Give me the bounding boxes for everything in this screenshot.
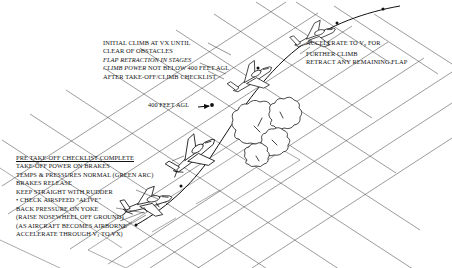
text-run: RETRACT ANY REMAINING FLAP (306, 58, 407, 65)
callout-line: BACK PRESSURE ON YOKE (16, 205, 153, 213)
emphasis-text: FLAP RETRACTION IN STAGES (103, 56, 191, 63)
400-feet-agl-arrow (198, 106, 209, 107)
aircraft-at-400-feet (224, 55, 279, 103)
400-feet-agl-label: 400 FEET AGL (148, 101, 189, 109)
callout-line: FLAP RETRACTION IN STAGES (103, 56, 229, 64)
callout-line: (AS AIRCRAFT BECOMES AIRBORNE (16, 222, 153, 230)
callout-line: FURTHER CLIMB (306, 50, 407, 58)
callout-line: CLIMB POWER NOT BELOW 400 FEET AGL (103, 64, 229, 72)
text-run: CLEAR OF OBSTACLES (103, 47, 173, 54)
callout-line: TAKE-OFF POWER ON BRAKES (16, 162, 153, 170)
text-run: TAKE-OFF POWER ON BRAKES (16, 162, 110, 169)
text-run: (AS AIRCRAFT BECOMES AIRBORNE (16, 222, 127, 229)
text-run: KEEP STRAIGHT WITH RUDDER (16, 188, 113, 195)
text-run: BACK PRESSURE ON YOKE (16, 205, 99, 212)
text-run: ACCELERATE TO V (306, 39, 364, 46)
altitude-label-text: 400 FEET AGL (148, 101, 189, 108)
text-run: INITIAL CLIMB AT VX UNTIL (103, 39, 190, 46)
text-run: FURTHER CLIMB (306, 50, 358, 57)
callout-line: KEEP STRAIGHT WITH RUDDER (16, 188, 153, 196)
callout-line: TEMPS & PRESSURES NORMAL (GREEN ARC) (16, 171, 153, 179)
callout-line: BRAKES RELEASE (16, 179, 153, 187)
callout-line: CLEAR OF OBSTACLES (103, 47, 229, 55)
callout-line: (RAISE NOSEWHEEL OFF GROUND) (16, 213, 153, 221)
text-run: AFTER TAKE-OFF/CLIMB CHECKLIST (103, 73, 216, 80)
callout-line: INITIAL CLIMB AT VX UNTIL (103, 39, 229, 47)
text-run: TEMPS & PRESSURES NORMAL (GREEN ARC) (16, 171, 153, 178)
tree-cluster (232, 97, 302, 166)
callout-line: ACCELERATE TO Vy FOR (306, 39, 407, 50)
accelerate-callout: ACCELERATE TO Vy FORFURTHER CLIMBRETRACT… (306, 39, 407, 67)
callout-line: AFTER TAKE-OFF/CLIMB CHECKLIST (103, 73, 229, 81)
bullet-text: • CHECK AIRSPEED "ALIVE" (16, 196, 101, 203)
aircraft-initial-climb (161, 126, 225, 185)
text-run: TO VX) (100, 230, 123, 237)
emphasis-text: CLIMB POWER (103, 64, 148, 71)
text-run: (RAISE NOSEWHEEL OFF GROUND) (16, 213, 124, 220)
text-run: FOR (366, 39, 380, 46)
callout-line: RETRACT ANY REMAINING FLAP (306, 58, 407, 66)
checklist-heading: PRE TAKE-OFF CHECKLIST COMPLETE (16, 154, 153, 162)
takeoff-climb-profile-figure: .gl { fill:none; stroke:#4a4a4a; stroke-… (0, 0, 452, 268)
initial-climb-callout: INITIAL CLIMB AT VX UNTILCLEAR OF OBSTAC… (103, 39, 229, 81)
text-run: NOT BELOW 400 FEET AGL (148, 64, 229, 71)
callout-line: ACCELERATE THROUGH V1 TO VX) (16, 230, 153, 241)
text-run: BRAKES RELEASE (16, 179, 72, 186)
callout-line: • CHECK AIRSPEED "ALIVE" (16, 196, 153, 204)
text-run: ACCELERATE THROUGH V (16, 230, 97, 237)
pre-takeoff-checklist-callout: PRE TAKE-OFF CHECKLIST COMPLETETAKE-OFF … (16, 154, 153, 241)
